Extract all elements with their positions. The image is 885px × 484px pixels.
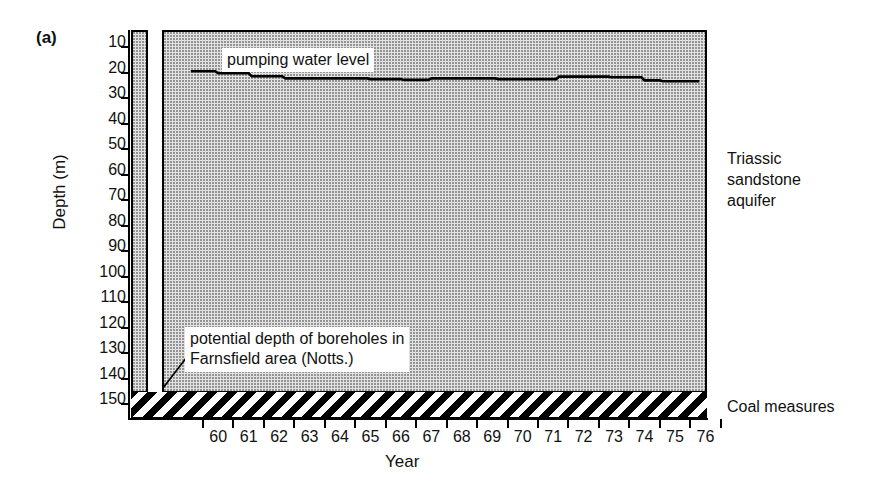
x-tick-mark — [232, 419, 234, 428]
x-tick-label: 63 — [295, 428, 325, 446]
y-tick-mark — [121, 403, 130, 405]
region-label-coal-measures: Coal measures — [727, 396, 835, 417]
coal-measures-band — [131, 392, 707, 419]
x-tick-mark — [720, 419, 722, 428]
x-tick-mark — [659, 419, 661, 428]
figure-panel-a: (a) Depth (m) Year 102030405060708090100… — [0, 0, 885, 484]
x-tick-label: 68 — [447, 428, 477, 446]
y-tick-mark — [121, 148, 130, 150]
region-label-line-3: aquifer — [727, 190, 801, 211]
x-tick-label: 62 — [264, 428, 294, 446]
x-axis-title: Year — [385, 452, 419, 472]
region-label-line-1: Triassic — [727, 148, 801, 169]
x-tick-label: 61 — [234, 428, 264, 446]
y-tick-mark — [121, 72, 130, 74]
region-label-line-2: sandstone — [727, 169, 801, 190]
x-tick-mark — [446, 419, 448, 428]
annotation-pumping-water-level: pumping water level — [222, 48, 374, 72]
x-tick-mark — [415, 419, 417, 428]
x-tick-mark — [628, 419, 630, 428]
x-tick-label: 72 — [569, 428, 599, 446]
x-tick-mark — [598, 419, 600, 428]
x-tick-label: 69 — [477, 428, 507, 446]
y-tick-mark — [121, 301, 130, 303]
borehole-column-strip — [131, 30, 148, 393]
y-tick-mark — [121, 199, 130, 201]
x-tick-label: 60 — [203, 428, 233, 446]
y-tick-mark — [121, 174, 130, 176]
x-tick-mark — [202, 419, 204, 428]
y-tick-mark — [121, 276, 130, 278]
y-tick-mark — [121, 97, 130, 99]
x-tick-mark — [689, 419, 691, 428]
x-tick-label: 73 — [599, 428, 629, 446]
x-tick-label: 65 — [355, 428, 385, 446]
annotation-borehole-line-2: Farnsfield area (Notts.) — [190, 349, 404, 369]
x-tick-mark — [354, 419, 356, 428]
y-tick-mark — [121, 46, 130, 48]
x-tick-label: 70 — [508, 428, 538, 446]
x-tick-mark — [476, 419, 478, 428]
x-tick-label: 66 — [386, 428, 416, 446]
y-tick-mark — [121, 327, 130, 329]
x-tick-label: 76 — [690, 428, 720, 446]
x-tick-mark — [385, 419, 387, 428]
x-tick-label: 75 — [660, 428, 690, 446]
panel-letter: (a) — [36, 28, 57, 48]
x-tick-label: 74 — [630, 428, 660, 446]
x-tick-mark — [567, 419, 569, 428]
x-tick-label: 64 — [325, 428, 355, 446]
x-tick-mark — [537, 419, 539, 428]
y-tick-mark — [121, 352, 130, 354]
x-axis-spine — [128, 418, 708, 420]
annotation-potential-borehole-depth: potential depth of boreholes in Farnsfie… — [185, 327, 409, 372]
region-label-triassic-sandstone-aquifer: Triassic sandstone aquifer — [727, 148, 801, 211]
y-tick-mark — [121, 378, 130, 380]
x-tick-mark — [507, 419, 509, 428]
x-tick-mark — [263, 419, 265, 428]
annotation-borehole-line-1: potential depth of boreholes in — [190, 329, 404, 349]
x-tick-label: 67 — [416, 428, 446, 446]
y-axis-title: Depth (m) — [50, 127, 70, 257]
x-tick-mark — [324, 419, 326, 428]
x-tick-label: 71 — [538, 428, 568, 446]
y-tick-mark — [121, 250, 130, 252]
y-tick-mark — [121, 123, 130, 125]
y-tick-mark — [121, 225, 130, 227]
x-tick-mark — [293, 419, 295, 428]
